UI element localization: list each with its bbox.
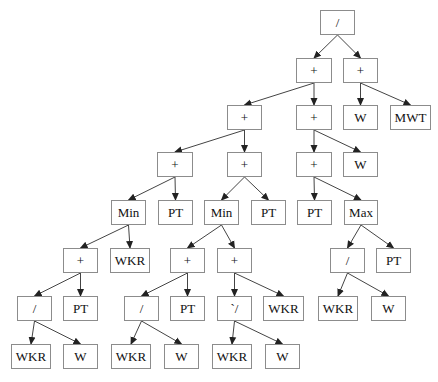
tree-node: + xyxy=(157,152,193,177)
tree-node: + xyxy=(227,152,262,177)
tree-edge-arrow xyxy=(232,321,235,344)
tree-node: PT xyxy=(63,296,98,321)
expression-tree-diagram: /++++WMWT+++WMinPTMinPTPTMax+WKR++/PT/PT… xyxy=(0,0,438,382)
tree-node: + xyxy=(170,248,205,273)
tree-edge-arrow xyxy=(245,177,269,200)
tree-edge-arrow xyxy=(129,225,131,248)
tree-edge-arrow xyxy=(235,273,284,296)
tree-edge-arrow xyxy=(314,130,361,152)
tree-edge-arrow xyxy=(235,321,283,344)
tree-node: W xyxy=(63,344,98,369)
tree-node: + xyxy=(217,248,252,273)
tree-edge-arrow xyxy=(314,177,315,200)
tree-edge-arrow xyxy=(361,83,411,105)
tree-node: PT xyxy=(170,296,205,321)
tree-node: / xyxy=(330,248,365,273)
tree-node: PT xyxy=(297,200,332,225)
tree-edge-arrow xyxy=(348,225,362,248)
tree-edge-arrow xyxy=(338,273,348,296)
tree-edge-arrow xyxy=(188,225,222,248)
tree-node: / xyxy=(320,10,355,35)
tree-edge-arrow xyxy=(175,177,176,200)
tree-node: / xyxy=(17,296,52,321)
tree-node: WKR xyxy=(263,296,304,321)
tree-node: W xyxy=(343,105,378,130)
tree-edge-arrow xyxy=(314,177,361,200)
tree-edge-arrow xyxy=(35,321,81,344)
tree-node: + xyxy=(227,105,262,130)
tree-node: WKR xyxy=(318,296,358,321)
tree-edge-arrow xyxy=(81,225,129,248)
tree-edge-arrow xyxy=(131,321,142,344)
tree-node: W xyxy=(343,152,378,177)
tree-edge-arrow xyxy=(338,35,361,58)
tree-edge-arrow xyxy=(142,321,182,344)
tree-edge-arrow xyxy=(129,177,176,200)
tree-node: WKR xyxy=(111,344,151,369)
tree-node: + xyxy=(296,152,332,177)
tree-node: W xyxy=(164,344,199,369)
tree-edge-arrow xyxy=(142,273,188,296)
tree-edge-arrow xyxy=(222,177,245,200)
tree-node: + xyxy=(296,58,332,83)
tree-node: WKR xyxy=(11,344,51,369)
tree-edge-arrow xyxy=(314,35,338,58)
tree-node: Min xyxy=(204,200,239,225)
tree-node: WKR xyxy=(110,248,150,273)
tree-node: MWT xyxy=(390,105,431,130)
tree-node: `/ xyxy=(217,296,252,321)
tree-edge-arrow xyxy=(222,225,235,248)
tree-node: WKR xyxy=(212,344,252,369)
tree-node: + xyxy=(343,58,378,83)
tree-edge-arrow xyxy=(361,225,394,248)
tree-node: Max xyxy=(344,200,378,225)
tree-node: / xyxy=(124,296,159,321)
tree-edge-arrow xyxy=(35,273,81,296)
tree-node: PT xyxy=(158,200,193,225)
tree-node: Min xyxy=(111,200,146,225)
tree-node: + xyxy=(63,248,98,273)
tree-node: PT xyxy=(251,200,286,225)
tree-edge-arrow xyxy=(245,83,315,105)
tree-node: PT xyxy=(376,248,411,273)
tree-edge-arrow xyxy=(175,130,245,152)
tree-edge-arrow xyxy=(31,321,35,344)
tree-node: W xyxy=(371,296,406,321)
tree-node: + xyxy=(296,105,332,130)
tree-edge-arrow xyxy=(348,273,389,296)
tree-node: W xyxy=(265,344,300,369)
